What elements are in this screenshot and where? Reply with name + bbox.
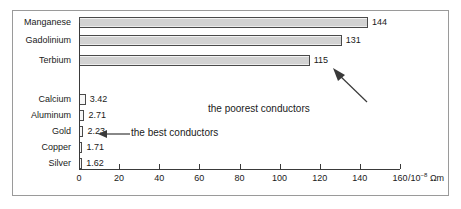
- bar-category-label: Manganese: [0, 16, 74, 28]
- x-tick: [199, 164, 200, 169]
- best-conductors-arrow-icon: [98, 129, 132, 139]
- x-tick-label: 120: [312, 173, 327, 183]
- unit-exponent: −8: [421, 172, 428, 178]
- bar-value-label: 2.71: [88, 109, 106, 121]
- unit-suffix: Ωm: [430, 173, 444, 183]
- poorest-conductors-annotation: the poorest conductors: [208, 103, 310, 114]
- y-axis-line: [79, 23, 80, 169]
- x-tick-label: 40: [154, 173, 164, 183]
- bar-value-label: 131: [346, 34, 361, 46]
- x-tick: [119, 164, 120, 169]
- bar-category-label: Terbium: [0, 54, 74, 66]
- bar-value-label: 1.62: [86, 157, 104, 169]
- x-tick: [240, 164, 241, 169]
- bar: [79, 55, 310, 66]
- x-tick-label: 60: [194, 173, 204, 183]
- x-axis-unit-label: /10−8 Ωm: [408, 173, 444, 183]
- bar-value-label: 115: [314, 54, 328, 66]
- best-conductors-annotation: the best conductors: [131, 127, 218, 138]
- x-tick: [159, 164, 160, 169]
- poorest-conductors-arrow-icon: [331, 68, 371, 106]
- bar-value-label: 144: [372, 16, 387, 28]
- bar-category-label: Aluminum: [0, 109, 74, 121]
- x-tick: [280, 164, 281, 169]
- bar-value-label: 1.71: [86, 141, 104, 153]
- x-tick-label: 20: [114, 173, 124, 183]
- bar: [79, 35, 342, 46]
- bar: [79, 17, 368, 28]
- x-tick-label: 0: [76, 173, 81, 183]
- x-tick-label: 140: [352, 173, 367, 183]
- x-tick-label: 100: [272, 173, 287, 183]
- bar-category-label: Gadolinium: [0, 34, 74, 46]
- chart-frame: Manganese144Gadolinium131Terbium115Calci…: [12, 10, 449, 196]
- bar-category-label: Calcium: [0, 93, 74, 105]
- unit-prefix: /10: [408, 173, 421, 183]
- x-tick: [400, 164, 401, 169]
- bar-value-label: 3.42: [90, 93, 108, 105]
- plot-area: Manganese144Gadolinium131Terbium115Calci…: [13, 11, 448, 195]
- x-tick: [360, 164, 361, 169]
- bar: [79, 94, 86, 105]
- x-tick-label: 160: [392, 173, 407, 183]
- bar-category-label: Silver: [0, 157, 74, 169]
- bar-category-label: Copper: [0, 141, 74, 153]
- bar-category-label: Gold: [0, 125, 74, 137]
- x-tick-label: 80: [234, 173, 244, 183]
- x-tick: [320, 164, 321, 169]
- x-axis-line: [79, 169, 400, 170]
